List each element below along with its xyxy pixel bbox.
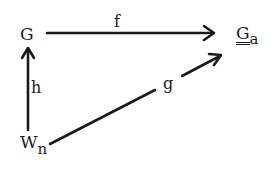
node-g-a-subscript: a (250, 30, 259, 48)
label-h: h (31, 80, 41, 96)
node-g-a: Ga (236, 25, 259, 45)
node-g-label: G (20, 24, 34, 44)
node-g-a-label: G (236, 25, 250, 45)
label-f: f (114, 14, 120, 30)
label-g: g (163, 76, 173, 92)
node-w-n: Wn (20, 134, 47, 151)
node-g: G (20, 26, 34, 43)
arrow-g-lower (50, 90, 155, 144)
node-w-n-label: W (20, 132, 37, 152)
node-w-n-subscript: n (37, 140, 47, 158)
